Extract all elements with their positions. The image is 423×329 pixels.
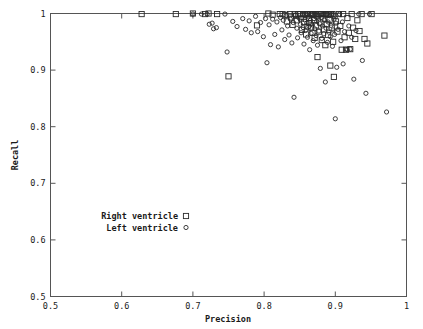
y-axis-title: Recall — [10, 140, 20, 171]
x-tick-label: 0.6 — [114, 301, 129, 311]
figure-background — [0, 0, 423, 329]
y-tick-label: 0.9 — [30, 65, 45, 75]
y-tick-label: 0.7 — [30, 178, 45, 188]
y-tick-label: 0.6 — [30, 235, 45, 245]
x-tick-label: 0.5 — [43, 301, 58, 311]
x-tick-label: 0.7 — [185, 301, 200, 311]
x-tick-label: 1 — [404, 301, 409, 311]
legend-label-right-ventricle: Right ventricle — [101, 211, 178, 221]
legend-label-left-ventricle: Left ventricle — [106, 223, 178, 233]
x-tick-label: 0.9 — [328, 301, 343, 311]
y-tick-label: 0.8 — [30, 122, 45, 132]
x-tick-label: 0.8 — [256, 301, 271, 311]
x-axis-title: Precision — [205, 314, 251, 324]
legend: Right ventricleLeft ventricle — [101, 211, 188, 233]
scatter-plot-figure: 0.50.60.70.80.91 0.50.60.70.80.91 Precis… — [0, 0, 423, 329]
precision-recall-scatter-svg: 0.50.60.70.80.91 0.50.60.70.80.91 Precis… — [0, 0, 423, 329]
y-tick-label: 1 — [40, 9, 45, 19]
